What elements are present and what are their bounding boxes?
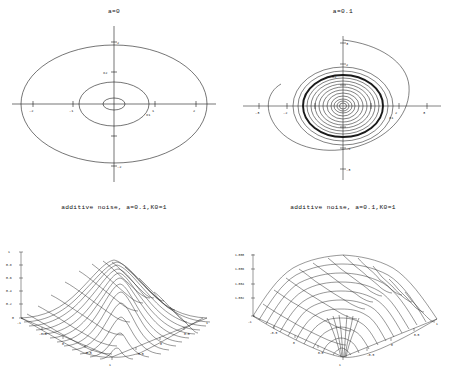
xtick-label: -1 — [17, 321, 21, 325]
y-axis-label: x2 — [103, 71, 107, 75]
xtick-label: -0.5 — [270, 332, 277, 335]
ytick-label: 1 — [436, 323, 438, 326]
ytick-label: 0 — [391, 344, 393, 347]
xtick-label: 0.5 — [86, 351, 92, 355]
xtick-label: 0.5 — [318, 352, 324, 355]
x-axis-label: x1 — [389, 116, 393, 120]
ytick-label: 0.5 — [184, 332, 190, 336]
ztick-label: 0 — [12, 316, 14, 320]
xtick-label: 1 — [339, 364, 341, 367]
xtick-label: -2 — [283, 111, 287, 115]
ztick-label: 1.004 — [235, 283, 244, 286]
xtick-label: -0.5 — [39, 332, 47, 336]
ztick-label: 1.002 — [235, 297, 244, 300]
xtick-label: 0 — [293, 342, 295, 345]
xtick-label: 3 — [423, 111, 425, 115]
ytick-label: 3 — [346, 42, 348, 46]
ytick-label: 0.5 — [414, 334, 420, 337]
ytick-label: -0.5 — [367, 354, 374, 357]
ztick-label: 0.8 — [6, 263, 12, 267]
ztick-label: 0.2 — [6, 302, 12, 306]
xtick-label: 2 — [193, 109, 195, 113]
ytick-label: -2 — [346, 147, 350, 151]
ytick-label: 2 — [346, 63, 348, 67]
plot-phase-portrait-a0: -2 -1 1 2 2 -2 x2 x1 — [0, 0, 228, 196]
ytick-label: 1 — [206, 321, 208, 325]
xtick-label: -1 — [248, 321, 252, 324]
base-edge — [21, 318, 112, 357]
panel-surface-right: additive noise, a=0.1,K0=1 — [229, 196, 457, 392]
ztick-label: 0.6 — [6, 276, 12, 280]
base-edge — [343, 319, 437, 357]
panel-phase-portrait-a01: a=0.1 — [229, 0, 457, 196]
xtick-label: 2 — [395, 111, 397, 115]
panel-phase-portrait-a0: a=0 -2 — [0, 0, 228, 196]
ztick-label: 1 — [8, 250, 10, 254]
xtick-label: -3 — [255, 111, 259, 115]
plot-surface-right: 1.008 1.006 1.004 1.002 -1 -0.5 0 0.5 1 … — [229, 196, 457, 392]
plot-surface-left: 1 0.8 0.6 0.4 0.2 0 -1 -0.5 0 0.5 1 -0.5… — [0, 196, 228, 392]
xtick-label: -2 — [29, 109, 33, 113]
xtick-label: -1 — [69, 109, 73, 113]
four-panel-figure: a=0 -2 — [0, 0, 457, 392]
ztick-label: 0.4 — [6, 289, 12, 293]
ztick-label: 1.008 — [235, 254, 244, 257]
ztick-label: 1.006 — [235, 268, 244, 271]
ytick-label: 2 — [117, 41, 119, 45]
xtick-label: 1 — [152, 109, 154, 113]
panel-surface-left: additive noise, a=0.1,K0=1 — [0, 196, 228, 392]
x-axis-label: x1 — [146, 113, 150, 117]
ytick-label: 0 — [160, 342, 162, 346]
y-axis-label: x2 — [332, 75, 336, 79]
ytick-label: -3 — [346, 168, 350, 172]
xtick-label: 0 — [62, 342, 64, 346]
ytick-label: -2 — [117, 165, 121, 169]
ytick-label: -0.5 — [136, 352, 144, 356]
plot-phase-portrait-a01: -3 -2 2 3 3 2 -2 -3 x2 x1 — [229, 0, 457, 196]
xtick-label: 1 — [109, 363, 111, 367]
